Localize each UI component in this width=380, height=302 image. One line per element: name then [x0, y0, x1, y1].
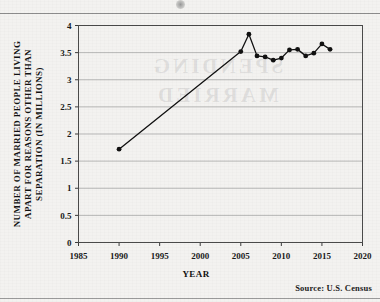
y-tick-label: 2 — [67, 129, 72, 139]
data-point-marker — [271, 58, 276, 63]
line-chart-figure: 00.511.522.533.54 1985199019952000200520… — [0, 0, 380, 302]
y-axis-tick-marks — [75, 26, 79, 243]
y-axis-tick-labels: 00.511.522.533.54 — [60, 21, 72, 248]
data-point-marker — [287, 48, 292, 53]
data-point-marker — [295, 47, 300, 52]
x-axis-tick-labels: 19851990199520002005201020152020 — [70, 251, 373, 261]
y-tick-label: 0.5 — [60, 211, 72, 221]
data-series-markers — [117, 32, 333, 152]
x-tick-label: 2000 — [191, 251, 210, 261]
data-point-marker — [263, 55, 268, 60]
x-tick-label: 1990 — [110, 251, 129, 261]
data-point-marker — [320, 42, 325, 47]
data-point-marker — [247, 32, 252, 37]
y-axis-title-line-1: NUMBER OF MARRIED PEOPLE LIVING — [12, 41, 22, 228]
source-note: Source: U.S. Census — [295, 283, 372, 293]
data-point-marker — [117, 147, 122, 152]
y-tick-label: 1.5 — [60, 156, 72, 166]
y-axis-title-line-2: APART FOR REASONS OTHER THAN — [23, 49, 33, 219]
y-axis-title: NUMBER OF MARRIED PEOPLE LIVING APART FO… — [12, 41, 44, 228]
x-tick-label: 2010 — [272, 251, 291, 261]
x-tick-label: 2020 — [354, 251, 373, 261]
y-axis-title-line-3: SEPARATION (IN MILLIONS) — [34, 67, 44, 201]
data-point-marker — [303, 53, 308, 58]
data-point-marker — [328, 47, 333, 52]
y-tick-label: 3.5 — [60, 48, 72, 58]
data-point-marker — [255, 53, 260, 58]
chart-svg: 00.511.522.533.54 1985199019952000200520… — [0, 0, 380, 302]
x-tick-label: 1985 — [70, 251, 89, 261]
x-tick-label: 1995 — [151, 251, 170, 261]
y-tick-label: 2.5 — [60, 102, 72, 112]
data-point-marker — [279, 56, 284, 61]
y-tick-label: 0 — [67, 238, 72, 248]
y-tick-label: 4 — [67, 21, 72, 31]
x-axis-title: YEAR — [182, 269, 209, 279]
data-point-marker — [311, 51, 316, 56]
x-tick-label: 2015 — [313, 251, 332, 261]
x-axis-tick-marks — [79, 243, 363, 247]
x-tick-label: 2005 — [232, 251, 251, 261]
y-tick-label: 3 — [67, 75, 72, 85]
data-point-marker — [238, 49, 243, 54]
grid-lines — [79, 26, 363, 216]
y-tick-label: 1 — [67, 183, 72, 193]
